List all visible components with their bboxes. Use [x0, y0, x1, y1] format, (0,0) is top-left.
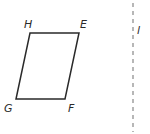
vertex-label-e: E: [80, 18, 87, 31]
geometry-diagram: H E F G l: [0, 0, 150, 134]
vertex-label-g: G: [4, 102, 13, 115]
parallelogram-hefg: [16, 33, 79, 99]
vertex-label-f: F: [68, 102, 75, 115]
vertex-label-h: H: [24, 18, 32, 31]
line-label-l: l: [137, 24, 140, 37]
